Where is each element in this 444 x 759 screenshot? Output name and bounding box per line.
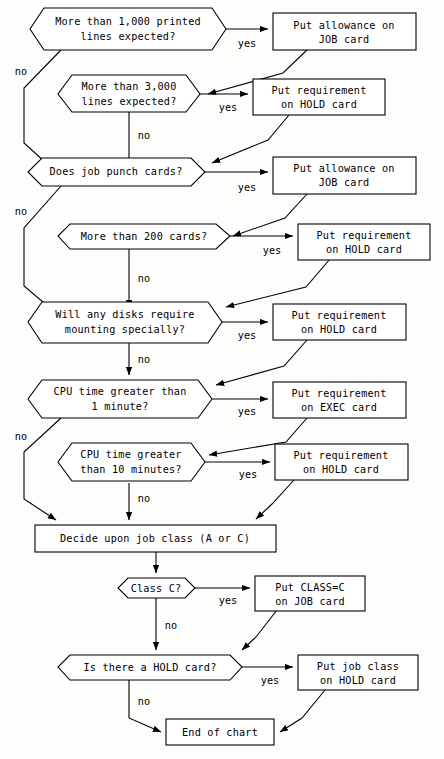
edge-a2-to-d3 (212, 115, 289, 163)
terminator-node-end-of-chart[interactable]: End of chart (166, 719, 274, 745)
node-label-line: End of chart (182, 727, 258, 738)
node-label-line: Is there a HOLD card? (83, 662, 216, 673)
decision-node-printed-lines-1000[interactable]: More than 1,000 printed lines expected? (30, 8, 226, 50)
action-node-requirement-exec-card[interactable]: Put requirement on EXEC card (273, 382, 406, 418)
edge-d3-no (24, 186, 61, 313)
edge-label-yes: yes (238, 406, 256, 417)
node-label-line: on HOLD card (303, 464, 379, 475)
node-label-line: Put requirement (316, 230, 411, 241)
node-label-line: Decide upon job class (A or C) (60, 533, 250, 544)
node-label-line: Put allowance on (293, 20, 394, 31)
action-node-job-class-hold-card[interactable]: Put job class on HOLD card (298, 655, 418, 690)
node-label-line: More than 3,000 (81, 81, 176, 92)
node-label-line: mounting specially? (65, 324, 185, 335)
edge-label-yes: yes (239, 469, 257, 480)
process-node-decide-job-class[interactable]: Decide upon job class (A or C) (35, 525, 276, 552)
decision-node-printed-lines-3000[interactable]: More than 3,000 lines expected? (58, 75, 200, 112)
node-label-line: JOB card (319, 177, 370, 188)
node-label-line: Put allowance on (293, 163, 394, 174)
node-label-line: CPU time greater (80, 449, 181, 460)
action-node-class-c-job-card[interactable]: Put CLASS=C on JOB card (255, 576, 365, 611)
node-label-line: on EXEC card (301, 402, 377, 413)
node-label-line: on HOLD card (301, 324, 377, 335)
edge-label-no: no (15, 206, 27, 217)
action-node-requirement-hold-card-2[interactable]: Put requirement on HOLD card (298, 224, 430, 260)
edge-d6-no (24, 418, 61, 520)
decision-node-disks-mounting[interactable]: Will any disks require mounting speciall… (28, 302, 222, 343)
edge-a5-to-d6 (216, 340, 307, 385)
flowchart-canvas: yes no yes no yes no yes no yes no yes n… (0, 0, 444, 759)
node-label-line: Put requirement (271, 85, 366, 96)
edge-label-layer: yes no yes no yes no yes no yes no yes n… (15, 38, 281, 707)
node-label-line: on HOLD card (281, 99, 357, 110)
node-label-line: Will any disks require (55, 309, 194, 320)
edge-label-no: no (138, 696, 150, 707)
edge-label-no: no (138, 493, 150, 504)
edge-label-no: no (138, 273, 150, 284)
edge-a9-to-end (280, 690, 325, 732)
node-label-line: on HOLD card (320, 675, 396, 686)
edge-label-no: no (15, 431, 27, 442)
decision-node-punch-cards[interactable]: Does job punch cards? (28, 158, 205, 186)
node-label-line: on HOLD card (326, 244, 402, 255)
edge-label-yes: yes (238, 330, 256, 341)
edge-a7-to-p1 (256, 480, 294, 519)
edge-a4-to-d5 (226, 259, 330, 307)
edge-label-no: no (165, 620, 177, 631)
node-label-line: than 10 minutes? (80, 464, 181, 475)
node-label-line: 1 minute? (91, 401, 148, 412)
decision-node-cpu-time-1-minute[interactable]: CPU time greater than 1 minute? (28, 380, 212, 418)
node-label-line: lines expected? (81, 96, 176, 107)
edge-d1-no (24, 50, 61, 172)
node-label-line: Class C? (131, 583, 182, 594)
node-label-line: Put requirement (291, 310, 386, 321)
node-label-line: More than 1,000 printed (55, 16, 201, 27)
node-label-line: CPU time greater than (53, 386, 186, 397)
node-label-line: Put requirement (291, 388, 386, 399)
node-label-line: JOB card (319, 34, 370, 45)
action-node-allowance-job-card-1[interactable]: Put allowance on JOB card (273, 13, 416, 50)
edge-label-yes: yes (219, 595, 237, 606)
edge-a3-to-d4 (233, 194, 307, 236)
decision-node-hold-card-exists[interactable]: Is there a HOLD card? (58, 655, 242, 680)
edge-label-yes: yes (219, 102, 237, 113)
edge-label-yes: yes (261, 675, 279, 686)
edge-label-no: no (138, 354, 150, 365)
decision-node-more-than-200-cards[interactable]: More than 200 cards? (58, 224, 230, 249)
action-node-allowance-job-card-2[interactable]: Put allowance on JOB card (273, 157, 416, 194)
edge-a8-to-d9 (242, 610, 277, 650)
edge-label-yes: yes (238, 38, 256, 49)
node-label-line: Put requirement (293, 450, 388, 461)
node-label-line: Put CLASS=C (275, 582, 345, 593)
node-label-line: Does job punch cards? (49, 166, 182, 177)
decision-node-class-c[interactable]: Class C? (118, 578, 195, 598)
node-label-line: lines expected? (80, 31, 175, 42)
action-node-requirement-hold-card-4[interactable]: Put requirement on HOLD card (275, 444, 408, 480)
decision-node-cpu-time-10-minutes[interactable]: CPU time greater than 10 minutes? (58, 443, 205, 481)
edge-label-yes: yes (263, 245, 281, 256)
node-label-line: More than 200 cards? (81, 231, 208, 242)
node-label-line: on JOB card (275, 596, 345, 607)
action-node-requirement-hold-card-1[interactable]: Put requirement on HOLD card (253, 79, 385, 115)
action-node-requirement-hold-card-3[interactable]: Put requirement on HOLD card (273, 304, 406, 340)
edge-label-no: no (138, 130, 150, 141)
node-label-line: Put job class (317, 661, 399, 672)
edge-label-yes: yes (238, 182, 256, 193)
edge-label-no: no (15, 66, 27, 77)
